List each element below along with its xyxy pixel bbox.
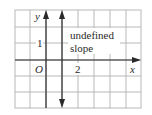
x-axis-label: x bbox=[129, 63, 135, 75]
y-axis-label: y bbox=[34, 10, 40, 22]
origin-label: O bbox=[35, 63, 43, 75]
grid bbox=[15, 10, 141, 108]
y-tick-label-1: 1 bbox=[37, 37, 43, 49]
coordinate-plane: y 1 O 2 x undefined slope bbox=[0, 0, 152, 115]
annotation-line2: slope bbox=[70, 42, 93, 54]
x-tick-label-2: 2 bbox=[75, 63, 81, 75]
line-up-arrow-icon bbox=[59, 10, 65, 19]
line-down-arrow-icon bbox=[59, 99, 65, 108]
y-axis-arrow-icon bbox=[43, 10, 49, 19]
vertical-line-series bbox=[59, 10, 65, 108]
annotation-line1: undefined bbox=[70, 29, 114, 41]
y-axis bbox=[43, 10, 49, 108]
